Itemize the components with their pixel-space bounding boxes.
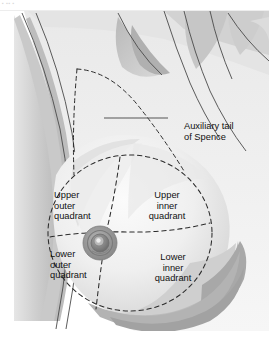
uoq-line-1: Upper [54, 190, 79, 200]
uiq-line-3: quadrant [149, 211, 186, 221]
uiq-line-1: Upper [154, 190, 179, 200]
uoq-line-3: quadrant [54, 211, 91, 221]
label-lower-inner-quadrant: Lowerinnerquadrant [142, 252, 204, 284]
liq-line-1: Lower [160, 252, 185, 262]
loq-line-3: quadrant [50, 270, 87, 280]
breast-quadrant-illustration: Auxiliary tailof Spence Upperouterquadra… [14, 11, 269, 331]
screenshot-root: ▪ ▪▪ ▪ [0, 0, 269, 340]
loq-line-2: outer [50, 260, 71, 270]
label-upper-outer-quadrant: Upperouterquadrant [54, 190, 91, 222]
label-upper-inner-quadrant: Upperinnerquadrant [136, 190, 198, 222]
axtail-line-2: of Spence [184, 132, 226, 142]
axtail-line-1: Auxiliary tail [184, 121, 234, 131]
top-strip-fragment: ▪ ▪▪ ▪ [2, 1, 15, 6]
top-strip: ▪ ▪▪ ▪ [0, 0, 269, 11]
label-auxiliary-tail-of-spence: Auxiliary tailof Spence [184, 121, 234, 142]
liq-line-2: inner [163, 263, 184, 273]
uoq-line-2: outer [54, 201, 75, 211]
loq-line-1: Lower [50, 249, 75, 259]
nipple-areola-complex [83, 226, 117, 260]
uiq-line-2: inner [157, 201, 178, 211]
liq-line-3: quadrant [155, 273, 192, 283]
label-lower-outer-quadrant: Lowerouterquadrant [50, 249, 87, 281]
